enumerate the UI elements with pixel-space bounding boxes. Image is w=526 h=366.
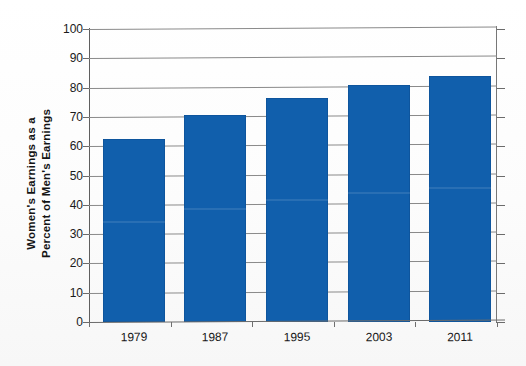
y-ticks-right-60 <box>496 146 505 147</box>
x-axis-tick-labels: 19791987199520032011 <box>89 330 505 352</box>
x-tick-4 <box>415 322 416 327</box>
x-tick-label-1987: 1987 <box>180 329 250 344</box>
gridline-90 <box>89 56 497 59</box>
y-tick-label-10: 10 <box>49 286 83 300</box>
x-tick-3 <box>334 322 335 327</box>
y-ticks-right-10 <box>496 293 505 294</box>
gridline-100 <box>89 27 497 30</box>
plot-area <box>89 29 497 322</box>
y-ticks-right-20 <box>496 263 505 264</box>
bar-2011[interactable] <box>429 76 491 322</box>
y-ticks-right-90 <box>496 58 505 59</box>
bar-2003[interactable] <box>348 85 410 322</box>
x-tick-label-2003: 2003 <box>343 329 413 344</box>
x-tick-0 <box>89 322 90 327</box>
x-tick-label-1995: 1995 <box>262 329 332 344</box>
y-ticks-right-70 <box>496 117 505 118</box>
x-tick-label-2011: 2011 <box>425 329 495 344</box>
x-tick-label-1979: 1979 <box>99 329 169 344</box>
y-ticks-right-40 <box>496 205 505 206</box>
x-tick-5 <box>497 322 498 327</box>
y-tick-label-70: 70 <box>49 110 83 124</box>
y-tick-label-100: 100 <box>49 22 83 36</box>
bar-1987[interactable] <box>184 115 246 322</box>
bar-1979[interactable] <box>103 139 165 322</box>
y-tick-label-30: 30 <box>49 227 83 241</box>
x-axis-ticks <box>89 322 505 328</box>
y-ticks-right-50 <box>496 176 505 177</box>
bar-1995[interactable] <box>266 98 328 322</box>
y-ticks-right-80 <box>496 88 505 89</box>
y-axis-ticks-right <box>496 29 505 322</box>
x-tick-1 <box>171 322 172 327</box>
y-tick-label-50: 50 <box>49 169 83 183</box>
y-tick-label-40: 40 <box>49 198 83 212</box>
x-tick-2 <box>252 322 253 327</box>
y-ticks-right-30 <box>496 234 505 235</box>
y-tick-label-60: 60 <box>49 139 83 153</box>
y-axis-tick-labels: 1009080706050403020100 <box>45 29 83 322</box>
y-tick-label-20: 20 <box>49 256 83 270</box>
y-ticks-right-100 <box>496 29 505 30</box>
y-axis-title-line-1: Women's Earnings as a <box>24 117 38 250</box>
y-tick-label-0: 0 <box>49 315 83 329</box>
y-tick-label-90: 90 <box>49 51 83 65</box>
chart-page: Percent of Men's Earnings Women's Earnin… <box>0 0 526 366</box>
y-tick-label-80: 80 <box>49 81 83 95</box>
